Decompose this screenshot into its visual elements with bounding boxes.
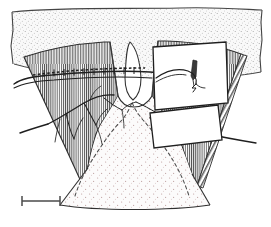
scale-bar [22, 196, 60, 206]
upper-inset-panel[interactable] [153, 42, 228, 110]
lower-inset-panel[interactable] [150, 105, 222, 148]
figure-root [0, 0, 271, 227]
cross-section-illustration [0, 0, 271, 227]
